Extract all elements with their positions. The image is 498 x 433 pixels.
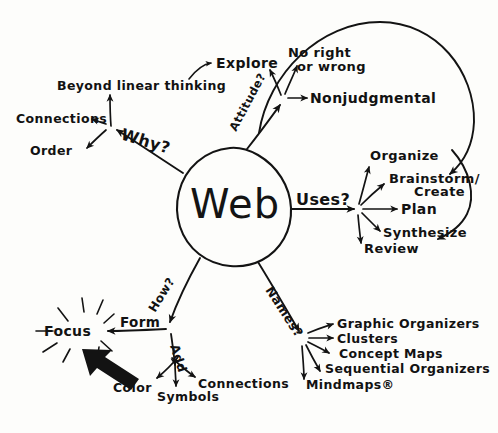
- explore-curve-arrow: [189, 63, 211, 79]
- node-connections-why: Connections: [16, 111, 107, 126]
- node-order: Order: [30, 143, 73, 158]
- mindmap-drawing: Web Why? Beyond linear thinking Connecti…: [0, 0, 498, 433]
- node-nonjudgmental: Nonjudgmental: [310, 90, 436, 106]
- edge-uses-synthesize: [362, 213, 380, 231]
- node-create: Create: [414, 184, 465, 199]
- edge-names-sequential: [306, 345, 320, 371]
- node-explore: Explore: [216, 55, 278, 71]
- branch-why[interactable]: Why? Beyond linear thinking Connections …: [16, 78, 226, 173]
- node-mindmaps: Mindmaps®: [306, 377, 395, 392]
- branch-names[interactable]: Names? Graphic Organizers Clusters Conce…: [258, 262, 490, 392]
- edge-names-concept: [308, 342, 329, 353]
- edge-why-beyond: [110, 95, 111, 126]
- node-plan: Plan: [401, 201, 437, 217]
- central-node-label: Web: [190, 181, 280, 227]
- bold-pointer-arrow: [82, 349, 139, 390]
- branch-uses-label: Uses?: [296, 190, 350, 209]
- node-concept-maps: Concept Maps: [339, 346, 443, 361]
- node-symbols: Symbols: [157, 389, 219, 404]
- edge-why-order: [87, 130, 106, 148]
- branch-how-label: How?: [146, 275, 178, 315]
- branch-attitude[interactable]: Attitude? Explore No right or wrong Nonj…: [189, 45, 436, 149]
- branch-how-spine: [170, 258, 200, 322]
- edge-names-mindmaps: [302, 346, 304, 379]
- branch-why-label: Why?: [119, 125, 173, 158]
- edge-attitude-explore: [270, 70, 281, 95]
- node-graphic-organizers: Graphic Organizers: [337, 316, 480, 331]
- branch-how[interactable]: How? Form Focus Add Color Symbols Connec…: [36, 258, 289, 404]
- node-clusters: Clusters: [337, 331, 398, 346]
- node-synthesize: Synthesize: [383, 225, 467, 240]
- branch-attitude-label: Attitude?: [226, 70, 268, 133]
- edge-names-graphic: [308, 324, 333, 333]
- node-or-wrong: or wrong: [297, 59, 366, 74]
- node-review: Review: [364, 241, 419, 256]
- node-connections-how: Connections: [198, 376, 289, 391]
- edge-uses-review: [358, 215, 361, 243]
- node-beyond-linear-thinking: Beyond linear thinking: [57, 78, 226, 93]
- central-node-web[interactable]: Web: [177, 148, 291, 266]
- node-sequential-organizers: Sequential Organizers: [325, 361, 490, 376]
- node-form: Form: [120, 314, 160, 330]
- mindmap-canvas: Web Why? Beyond linear thinking Connecti…: [0, 0, 498, 433]
- branch-names-label: Names?: [262, 283, 306, 339]
- node-add: Add: [167, 342, 190, 374]
- node-organize: Organize: [370, 148, 439, 163]
